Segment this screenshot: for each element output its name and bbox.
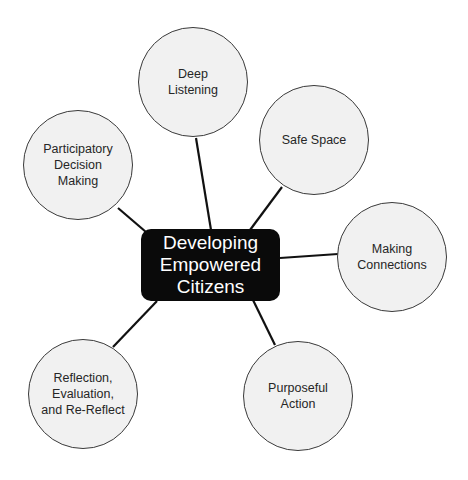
node-purposeful-action: Purposeful Action (243, 341, 353, 451)
node-label: Making Connections (357, 241, 427, 273)
center-node: Developing Empowered Citizens (141, 229, 280, 301)
link-reflection (113, 301, 157, 347)
node-safe-space: Safe Space (259, 85, 369, 195)
node-making-connections: Making Connections (337, 202, 447, 312)
node-label: Participatory Decision Making (43, 141, 112, 189)
link-purposeful-action (253, 300, 275, 345)
link-making-connections (280, 254, 338, 258)
node-label: Reflection, Evaluation, and Re-Reflect (41, 370, 124, 418)
node-reflection: Reflection, Evaluation, and Re-Reflect (28, 339, 138, 449)
node-participatory-decision-making: Participatory Decision Making (23, 110, 133, 220)
node-label: Safe Space (282, 132, 347, 148)
center-label: Developing Empowered Citizens (160, 232, 261, 298)
node-label: Deep Listening (168, 66, 218, 98)
link-participatory (118, 208, 146, 232)
node-deep-listening: Deep Listening (138, 27, 248, 137)
link-deep-listening (196, 138, 211, 230)
node-label: Purposeful Action (268, 380, 328, 412)
link-safe-space (250, 187, 282, 230)
